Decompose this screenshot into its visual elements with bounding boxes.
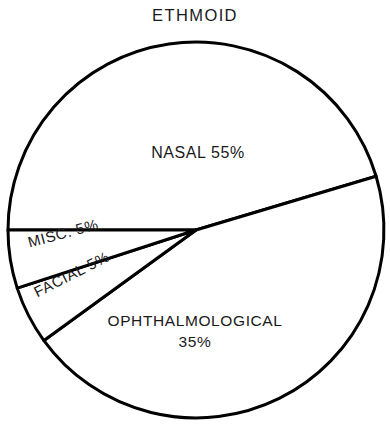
pie-label-ophthalmological-percent: 35% — [95, 332, 295, 353]
pie-chart-figure: ETHMOID NASAL 55% MISC. 5% FACIAL 5% OPH… — [0, 0, 390, 432]
pie-chart-graphic — [0, 0, 390, 432]
pie-label-ophthalmological: OPHTHALMOLOGICAL35% — [95, 311, 295, 353]
pie-label-ophthalmological-name: OPHTHALMOLOGICAL — [108, 312, 283, 329]
pie-label-nasal: NASAL 55% — [113, 144, 283, 162]
